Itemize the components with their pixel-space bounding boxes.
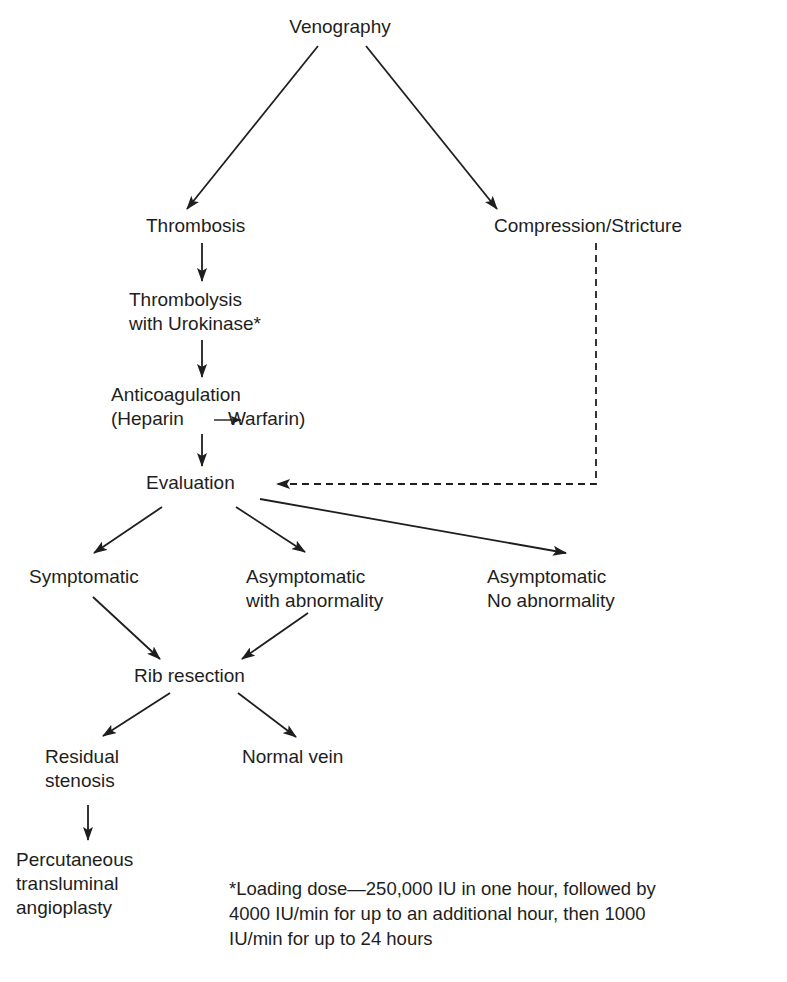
node-symptomatic-label: Symptomatic	[29, 565, 139, 589]
footnote-line2: 4000 IU/min for up to an additional hour…	[229, 901, 787, 926]
node-pta-line1: Percutaneous	[16, 848, 133, 872]
footnote-line1: *Loading dose—250,000 IU in one hour, fo…	[229, 876, 787, 901]
node-normal-vein-label: Normal vein	[242, 745, 343, 769]
node-asymptomatic-normal-line2: No abnormality	[487, 589, 615, 613]
node-residual-line2: stenosis	[45, 769, 119, 793]
edge-venography-compression	[366, 46, 497, 209]
node-rib-resection-label: Rib resection	[134, 664, 245, 688]
node-asymptomatic-abnormality: Asymptomatic with abnormality	[246, 565, 383, 613]
node-anticoagulation-line2: (HeparinWarfarin)	[111, 407, 305, 431]
edge-rib-residual	[103, 693, 170, 736]
node-venography-label: Venography	[240, 15, 440, 39]
edge-compression-evaluation-dashed	[277, 243, 596, 484]
edge-rib-normal-vein	[238, 693, 296, 737]
footnote: *Loading dose—250,000 IU in one hour, fo…	[229, 876, 787, 951]
edge-evaluation-asymptomatic-abnormal	[236, 507, 305, 552]
edge-asymptomatic-abnormal-rib	[242, 613, 308, 659]
footnote-line3: IU/min for up to 24 hours	[229, 926, 787, 951]
node-thrombolysis-line1: Thrombolysis	[129, 288, 261, 312]
node-evaluation-label: Evaluation	[146, 471, 235, 495]
node-asymptomatic-abnormal-line2: with abnormality	[246, 589, 383, 613]
node-thrombosis: Thrombosis	[146, 214, 245, 238]
node-thrombolysis: Thrombolysis with Urokinase*	[129, 288, 261, 336]
node-asymptomatic-abnormal-line1: Asymptomatic	[246, 565, 383, 589]
node-symptomatic: Symptomatic	[29, 565, 139, 589]
node-thrombolysis-line2: with Urokinase*	[129, 312, 261, 336]
edge-venography-thrombosis	[187, 46, 318, 209]
arrows-layer	[0, 0, 787, 982]
node-pta: Percutaneous transluminal angioplasty	[16, 848, 133, 920]
node-anticoagulation-line1: Anticoagulation	[111, 383, 305, 407]
node-compression-stricture: Compression/Stricture	[494, 214, 682, 238]
node-asymptomatic-normal-line1: Asymptomatic	[487, 565, 615, 589]
node-compression-label: Compression/Stricture	[494, 214, 682, 238]
node-normal-vein: Normal vein	[242, 745, 343, 769]
node-rib-resection: Rib resection	[134, 664, 245, 688]
node-evaluation: Evaluation	[146, 471, 235, 495]
node-pta-line3: angioplasty	[16, 896, 133, 920]
edge-evaluation-symptomatic	[94, 507, 162, 553]
node-residual-stenosis: Residual stenosis	[45, 745, 119, 793]
node-venography: Venography	[240, 15, 440, 39]
node-residual-line1: Residual	[45, 745, 119, 769]
warfarin-label: Warfarin)	[228, 408, 305, 429]
node-thrombosis-label: Thrombosis	[146, 214, 245, 238]
node-anticoagulation: Anticoagulation (HeparinWarfarin)	[111, 383, 305, 431]
heparin-label: (Heparin	[111, 408, 184, 429]
edge-symptomatic-rib	[93, 597, 160, 659]
edge-evaluation-asymptomatic-normal	[260, 499, 566, 553]
node-pta-line2: transluminal	[16, 872, 133, 896]
node-asymptomatic-no-abnormality: Asymptomatic No abnormality	[487, 565, 615, 613]
